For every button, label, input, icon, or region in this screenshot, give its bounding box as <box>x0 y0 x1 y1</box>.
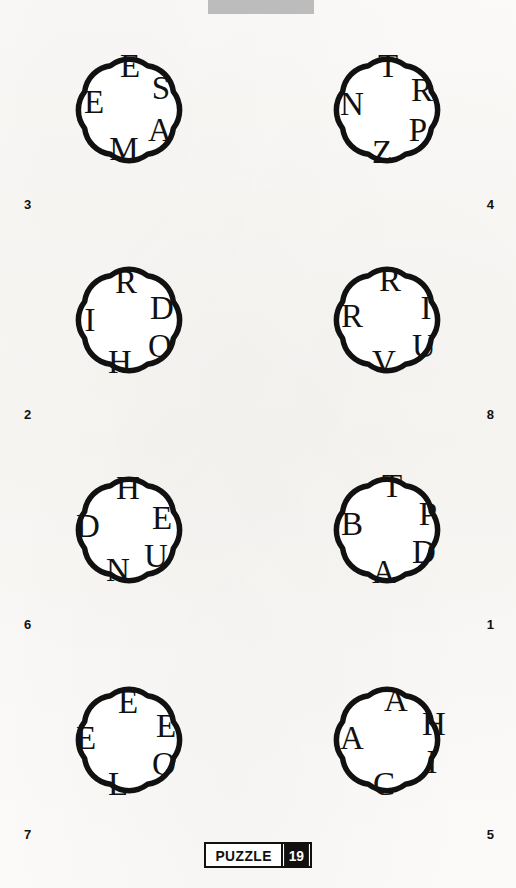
puzzle-cloud-2[interactable]: RDOHI2 <box>0 228 258 438</box>
puzzle-number: 7 <box>24 827 31 842</box>
puzzle-letter: I <box>427 746 438 779</box>
puzzle-letter: N <box>340 88 364 121</box>
puzzle-grid: ESAME3 TRPZN4 RDOHI2 RIUVR8 HEUND6 TPDAB… <box>0 0 516 888</box>
puzzle-number: 4 <box>487 197 494 212</box>
cloud-shape: TRPZN <box>298 26 476 194</box>
puzzle-letter: A <box>148 114 172 147</box>
puzzle-letter: T <box>382 470 402 503</box>
cloud-letters: EEOLE <box>40 656 218 824</box>
puzzle-letter: R <box>115 266 137 299</box>
puzzle-letter: H <box>422 708 446 741</box>
puzzle-number: 3 <box>24 197 31 212</box>
cloud-letters: RDOHI <box>40 236 218 404</box>
cloud-shape: AHICA <box>298 656 476 824</box>
puzzle-cloud-5[interactable]: AHICA5 <box>258 648 516 858</box>
puzzle-cloud-6[interactable]: HEUND6 <box>0 438 258 648</box>
puzzle-letter: O <box>152 748 176 781</box>
puzzle-cloud-4[interactable]: TRPZN4 <box>258 18 516 228</box>
puzzle-letter: O <box>148 330 172 363</box>
puzzle-letter: E <box>84 86 104 119</box>
puzzle-letter: A <box>340 722 364 755</box>
puzzle-letter: S <box>152 72 170 105</box>
puzzle-letter: E <box>118 686 138 719</box>
puzzle-number: 2 <box>24 407 31 422</box>
puzzle-letter: N <box>106 554 130 587</box>
puzzle-letter: C <box>373 768 395 801</box>
puzzle-letter: E <box>120 50 140 83</box>
puzzle-letter: I <box>85 304 96 337</box>
puzzle-letter: P <box>419 498 437 531</box>
cloud-shape: HEUND <box>40 446 218 614</box>
puzzle-letter: T <box>378 50 398 83</box>
puzzle-letter: R <box>411 74 433 107</box>
cloud-shape: TPDAB <box>298 446 476 614</box>
puzzle-letter: E <box>156 710 176 743</box>
cloud-shape: ESAME <box>40 26 218 194</box>
puzzle-cloud-7[interactable]: EEOLE7 <box>0 648 258 858</box>
puzzle-cloud-1[interactable]: TPDAB1 <box>258 438 516 648</box>
puzzle-letter: U <box>144 540 168 573</box>
cloud-letters: RIUVR <box>298 236 476 404</box>
cloud-letters: HEUND <box>40 446 218 614</box>
puzzle-letter: L <box>108 768 128 801</box>
cloud-shape: RDOHI <box>40 236 218 404</box>
puzzle-letter: E <box>76 722 96 755</box>
footer: PUZZLE 19 <box>0 842 516 868</box>
puzzle-cloud-3[interactable]: ESAME3 <box>0 18 258 228</box>
puzzle-number: 5 <box>487 827 494 842</box>
puzzle-badge-divider <box>281 844 283 866</box>
puzzle-letter: D <box>412 536 436 569</box>
puzzle-letter: D <box>76 510 100 543</box>
puzzle-badge-label: PUZZLE <box>209 844 277 866</box>
puzzle-letter: E <box>152 502 172 535</box>
puzzle-letter: D <box>150 292 174 325</box>
puzzle-number: 1 <box>487 617 494 632</box>
cloud-letters: TPDAB <box>298 446 476 614</box>
cloud-shape: RIUVR <box>298 236 476 404</box>
puzzle-number: 8 <box>487 407 494 422</box>
puzzle-badge: PUZZLE 19 <box>204 842 311 868</box>
puzzle-letter: H <box>108 346 132 379</box>
puzzle-letter: I <box>421 292 432 325</box>
puzzle-cloud-8[interactable]: RIUVR8 <box>258 228 516 438</box>
puzzle-badge-number: 19 <box>284 844 309 866</box>
puzzle-letter: B <box>341 508 363 541</box>
puzzle-letter: Z <box>372 136 392 169</box>
cloud-letters: ESAME <box>40 26 218 194</box>
puzzle-number: 6 <box>24 617 31 632</box>
puzzle-letter: H <box>116 472 140 505</box>
puzzle-letter: R <box>341 300 363 333</box>
puzzle-letter: V <box>372 346 396 379</box>
puzzle-letter: A <box>384 684 408 717</box>
cloud-letters: TRPZN <box>298 26 476 194</box>
puzzle-letter: U <box>412 330 436 363</box>
puzzle-letter: P <box>409 114 427 147</box>
puzzle-letter: R <box>379 264 401 297</box>
cloud-shape: EEOLE <box>40 656 218 824</box>
puzzle-letter: A <box>372 556 396 589</box>
cloud-letters: AHICA <box>298 656 476 824</box>
puzzle-letter: M <box>109 133 138 166</box>
